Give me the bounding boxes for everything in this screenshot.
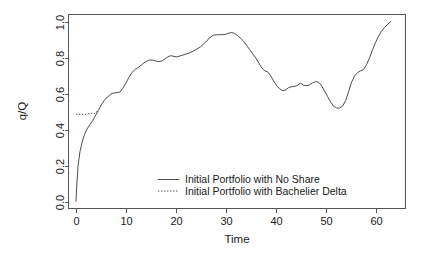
x-axis-ticks xyxy=(77,209,377,213)
y-tick-label: 0.4 xyxy=(54,123,66,138)
line-chart: 0102030405060 0.00.20.40.60.81.0 Time q/… xyxy=(0,0,423,261)
y-tick-label: 0.2 xyxy=(54,159,66,174)
legend-label-1: Initial Portfolio with Bachelier Delta xyxy=(185,185,347,197)
x-tick-label: 20 xyxy=(170,215,182,227)
x-tick-label: 0 xyxy=(73,215,79,227)
y-axis-ticks xyxy=(65,23,69,203)
x-tick-label: 30 xyxy=(220,215,232,227)
x-axis-title: Time xyxy=(224,233,249,245)
x-tick-label: 50 xyxy=(320,215,332,227)
y-axis-title: q/Q xyxy=(16,102,28,121)
x-tick-label: 40 xyxy=(270,215,282,227)
y-tick-label: 1.0 xyxy=(54,15,66,30)
x-tick-label: 60 xyxy=(370,215,382,227)
chart-figure: 0102030405060 0.00.20.40.60.81.0 Time q/… xyxy=(0,0,423,261)
x-tick-label: 10 xyxy=(120,215,132,227)
series-line-1 xyxy=(76,110,98,115)
legend-label-0: Initial Portfolio with No Share xyxy=(185,173,320,185)
y-tick-label: 0.8 xyxy=(54,51,66,66)
x-axis-tick-labels: 0102030405060 xyxy=(73,215,382,227)
chart-legend: Initial Portfolio with No ShareInitial P… xyxy=(158,173,347,197)
y-tick-label: 0.6 xyxy=(54,87,66,102)
y-axis-tick-labels: 0.00.20.40.60.81.0 xyxy=(54,15,66,210)
y-tick-label: 0.0 xyxy=(54,195,66,210)
